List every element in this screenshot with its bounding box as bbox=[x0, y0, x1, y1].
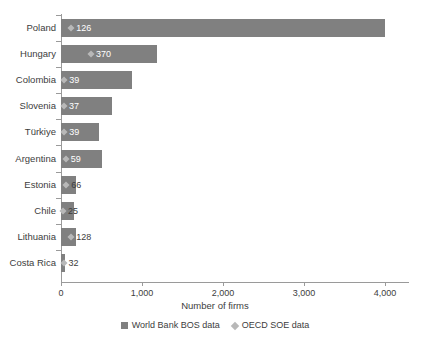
x-axis-tick-label: 1,000 bbox=[131, 288, 154, 298]
x-axis-tick bbox=[142, 282, 143, 286]
data-label: 66 bbox=[71, 180, 81, 190]
data-label: 126 bbox=[76, 23, 91, 33]
category-label: Slovenia bbox=[0, 101, 56, 111]
y-axis-tick bbox=[56, 93, 61, 94]
bar-chart: PolandHungaryColombiaSloveniaTürkiyeArge… bbox=[0, 0, 430, 338]
diamond-marker-icon bbox=[230, 321, 238, 329]
x-axis-tick-label: 0 bbox=[58, 288, 63, 298]
x-axis-tick-label: 2,000 bbox=[212, 288, 235, 298]
x-axis-tick-label: 4,000 bbox=[374, 288, 397, 298]
category-label: Colombia bbox=[0, 75, 56, 85]
category-label: Chile bbox=[0, 206, 56, 216]
data-label: 32 bbox=[69, 258, 79, 268]
y-axis-tick bbox=[56, 15, 61, 16]
data-label: 39 bbox=[69, 127, 79, 137]
category-label: Argentina bbox=[0, 154, 56, 164]
legend-item-world-bank-bos: World Bank BOS data bbox=[121, 320, 220, 331]
y-axis-tick bbox=[56, 224, 61, 225]
data-label: 370 bbox=[96, 49, 111, 59]
category-label: Hungary bbox=[0, 49, 56, 59]
x-axis-tick bbox=[61, 282, 62, 286]
category-label: Costa Rica bbox=[0, 258, 56, 268]
category-label: Poland bbox=[0, 23, 56, 33]
legend-item-oecd-soe: OECD SOE data bbox=[232, 320, 310, 331]
y-axis-tick bbox=[56, 67, 61, 68]
x-axis-title: Number of firms bbox=[0, 300, 430, 311]
category-label: Lithuania bbox=[0, 232, 56, 242]
data-label: 39 bbox=[69, 75, 79, 85]
square-marker-icon bbox=[121, 322, 128, 329]
x-axis-tick bbox=[223, 282, 224, 286]
x-axis-tick-label: 3,000 bbox=[293, 288, 316, 298]
x-axis-line bbox=[61, 282, 409, 283]
x-axis-tick bbox=[385, 282, 386, 286]
data-label: 59 bbox=[71, 154, 81, 164]
y-axis-tick bbox=[56, 41, 61, 42]
y-axis-tick bbox=[56, 198, 61, 199]
legend-label-world-bank-bos: World Bank BOS data bbox=[132, 320, 220, 331]
data-label: 25 bbox=[68, 206, 78, 216]
y-axis-tick bbox=[56, 119, 61, 120]
category-label: Türkiye bbox=[0, 127, 56, 137]
data-label: 37 bbox=[69, 101, 79, 111]
x-axis-tick bbox=[304, 282, 305, 286]
data-label: 128 bbox=[76, 232, 91, 242]
y-axis-tick bbox=[56, 250, 61, 251]
bar bbox=[61, 19, 385, 37]
legend-label-oecd-soe: OECD SOE data bbox=[242, 320, 310, 331]
chart-legend: World Bank BOS data OECD SOE data bbox=[0, 320, 430, 331]
y-axis-tick bbox=[56, 172, 61, 173]
y-axis-tick bbox=[56, 145, 61, 146]
category-label: Estonia bbox=[0, 180, 56, 190]
